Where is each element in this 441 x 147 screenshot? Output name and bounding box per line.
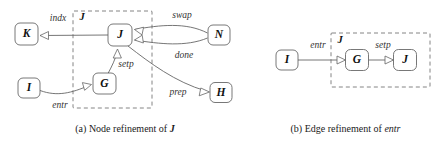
node-g-b[interactable]: G xyxy=(346,50,369,71)
edge-entr-b xyxy=(298,56,346,64)
node-h-label: H xyxy=(216,86,227,98)
node-j-a[interactable]: J xyxy=(108,24,132,46)
edge-swap xyxy=(135,25,208,34)
node-i-b-label: I xyxy=(284,53,290,65)
edge-label-indx: indx xyxy=(50,13,67,23)
node-g-b-label: G xyxy=(353,53,362,65)
edge-label-setp-a: setp xyxy=(118,59,134,69)
node-n[interactable]: N xyxy=(208,25,230,45)
figure-container: J indx swap done xyxy=(0,0,441,147)
edge-label-swap: swap xyxy=(172,10,192,20)
dashed-container-a-label: J xyxy=(78,11,85,22)
arrow-head-entr-a xyxy=(82,83,91,91)
caption-b-text: Edge refinement of xyxy=(305,123,382,134)
node-n-label: N xyxy=(214,28,224,40)
edge-indx xyxy=(40,32,108,40)
edge-label-done: done xyxy=(175,50,193,60)
arrow-head-setp-b xyxy=(385,56,394,64)
node-i-a[interactable]: I xyxy=(18,78,40,98)
edge-setp-b xyxy=(369,56,394,64)
caption-a-symbol: J xyxy=(170,123,175,134)
edge-entr-a xyxy=(40,83,92,94)
caption-a: (a) Node refinement of J xyxy=(0,123,250,134)
caption-b-prefix: (b) xyxy=(291,123,303,134)
node-g-a-label: G xyxy=(100,77,109,89)
caption-b: (b) Edge refinement of entr xyxy=(250,123,441,134)
node-i-a-label: I xyxy=(26,81,32,93)
caption-b-symbol: entr xyxy=(384,123,400,134)
node-k-label: K xyxy=(22,27,32,39)
caption-a-prefix: (a) xyxy=(75,123,86,134)
node-k[interactable]: K xyxy=(15,23,38,45)
arrow-head-entr-b xyxy=(337,56,346,64)
arrow-head-done xyxy=(135,35,144,43)
dashed-container-b-label: J xyxy=(336,34,343,45)
edge-label-setp-b: setp xyxy=(375,40,391,50)
arrow-head-indx xyxy=(40,32,49,40)
node-i-b[interactable]: I xyxy=(276,50,298,70)
arrow-head-swap xyxy=(135,27,144,35)
arrow-head-setp-a xyxy=(113,49,121,58)
caption-a-text: Node refinement of xyxy=(89,123,167,134)
edge-label-entr-a: entr xyxy=(52,100,68,110)
node-h[interactable]: H xyxy=(210,83,232,103)
edge-done xyxy=(135,35,208,44)
node-j-b[interactable]: J xyxy=(394,50,417,71)
node-g-a[interactable]: G xyxy=(93,73,116,94)
subfigure-a-group: J indx swap done xyxy=(15,10,232,110)
edge-label-entr-b: entr xyxy=(310,40,326,50)
edge-label-prep: prep xyxy=(168,87,186,97)
arrow-head-prep xyxy=(199,88,209,96)
subfigure-b-group: J entr setp I G xyxy=(276,33,430,87)
